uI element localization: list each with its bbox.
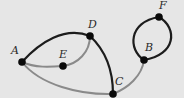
edge-a-e — [22, 62, 63, 67]
node-b — [140, 56, 148, 64]
label-d: D — [87, 18, 97, 31]
node-e — [59, 62, 67, 70]
node-a — [18, 58, 26, 66]
edge-e-d — [63, 36, 90, 66]
graph-diagram: A E D C B F — [0, 0, 184, 98]
label-b: B — [144, 41, 153, 54]
label-e: E — [58, 48, 67, 61]
edge-d-c — [90, 36, 113, 94]
node-f — [155, 13, 163, 21]
label-c: C — [115, 75, 124, 88]
graph-svg: A E D C B F — [0, 0, 184, 98]
label-a: A — [10, 44, 19, 57]
node-d — [86, 32, 94, 40]
label-f: F — [158, 0, 167, 12]
node-c — [109, 90, 117, 98]
